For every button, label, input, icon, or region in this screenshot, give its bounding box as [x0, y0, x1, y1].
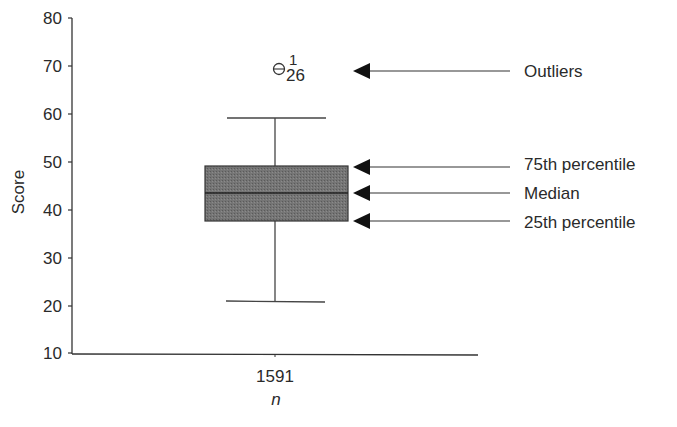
box-plot — [205, 118, 348, 302]
outlier-case-label-26: 26 — [286, 66, 305, 85]
x-axis: 1591 n — [72, 354, 478, 409]
annotation-outliers: Outliers — [524, 62, 583, 81]
annotation-25th-percentile: 25th percentile — [524, 213, 636, 232]
y-tick-10: 10 — [43, 344, 62, 363]
y-tick-40: 40 — [43, 201, 62, 220]
boxplot-chart: 80 70 60 50 40 30 20 10 Score 1591 n 1 2… — [0, 0, 677, 427]
y-tick-30: 30 — [43, 249, 62, 268]
annotation-median: Median — [524, 184, 580, 203]
lower-whisker-cap — [226, 301, 325, 302]
arrow-left-icon — [353, 159, 370, 175]
y-tick-80: 80 — [43, 9, 62, 28]
x-tick-1591: 1591 — [256, 367, 294, 386]
y-axis-title: Score — [9, 170, 28, 214]
arrow-left-icon — [353, 213, 370, 229]
y-tick-20: 20 — [43, 297, 62, 316]
arrow-left-icon — [353, 185, 370, 201]
annotation-75th-percentile: 75th percentile — [524, 155, 636, 174]
y-tick-50: 50 — [43, 153, 62, 172]
y-tick-70: 70 — [43, 57, 62, 76]
x-axis-title: n — [271, 390, 280, 409]
y-axis: 80 70 60 50 40 30 20 10 Score — [9, 9, 72, 363]
outlier: 1 26 — [274, 51, 305, 85]
annotations: Outliers 75th percentile Median 25th per… — [353, 62, 636, 232]
arrow-left-icon — [353, 63, 370, 79]
y-tick-60: 60 — [43, 105, 62, 124]
